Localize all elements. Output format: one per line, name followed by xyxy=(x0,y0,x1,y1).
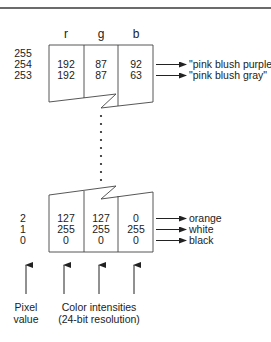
column-header-g: g xyxy=(98,27,105,41)
upward-arrows xyxy=(26,265,134,294)
vertical-ellipsis-icon xyxy=(100,115,102,181)
pixel-value-253: 253 xyxy=(14,69,32,81)
upper-row-253: 192 87 63 "pink blush gray" xyxy=(57,69,267,81)
color-lookup-table-diagram: r g b 255 254 253 192 87 92 "pink blush … xyxy=(0,0,271,342)
bottom-labels: Pixel value Color intensities (24-bit re… xyxy=(13,301,139,325)
pixel-value-caption-line1: Pixel xyxy=(15,301,38,313)
color-intensities-caption-line2: (24-bit resolution) xyxy=(58,313,140,325)
pixel-value: 0 xyxy=(20,234,26,246)
upper-pixel-values: 255 254 253 xyxy=(14,47,32,81)
cell-g: 0 xyxy=(98,234,104,246)
column-header-b: b xyxy=(133,27,140,41)
column-headers: r g b xyxy=(64,27,140,41)
cell-r: 192 xyxy=(57,69,75,81)
upper-tear-edge xyxy=(49,94,153,108)
column-header-r: r xyxy=(64,27,68,41)
color-intensities-caption-line1: Color intensities xyxy=(62,301,137,313)
cell-g: 87 xyxy=(95,69,107,81)
cell-b: 63 xyxy=(130,69,142,81)
cell-b: 0 xyxy=(133,234,139,246)
color-label: black xyxy=(189,234,214,246)
cell-r: 0 xyxy=(63,234,69,246)
color-label: "pink blush gray" xyxy=(189,69,267,81)
pixel-value-caption-line2: value xyxy=(13,313,38,325)
lower-tear-edge xyxy=(49,186,153,199)
